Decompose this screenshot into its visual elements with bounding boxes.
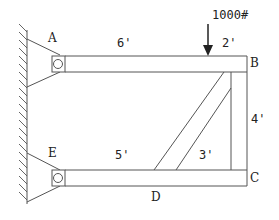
wall-hatching: [19, 24, 27, 200]
diagonal-member: [154, 72, 231, 170]
point-b-label: B: [250, 56, 259, 70]
point-a-label: A: [47, 31, 57, 45]
dim-top-right: 2': [222, 36, 236, 50]
beam-ec: [65, 170, 247, 186]
frame-diagram: 1000# A B C D E 6' 2' 4' 5' 3': [0, 0, 279, 220]
pin-support-e: [27, 153, 65, 202]
beam-ab: [65, 56, 247, 72]
load-label: 1000#: [212, 8, 249, 22]
dim-right-vertical: 4': [251, 112, 265, 126]
dim-bottom-right: 3': [199, 148, 213, 162]
point-d-label: D: [151, 190, 161, 204]
dim-bottom-left: 5': [115, 148, 129, 162]
point-c-label: C: [250, 171, 259, 185]
fixed-wall: [19, 24, 27, 204]
point-e-label: E: [48, 146, 57, 160]
load-arrow-icon: [203, 24, 213, 56]
member-bc: [231, 72, 247, 170]
pin-support-a: [27, 39, 65, 87]
dim-top-left: 6': [117, 36, 131, 50]
